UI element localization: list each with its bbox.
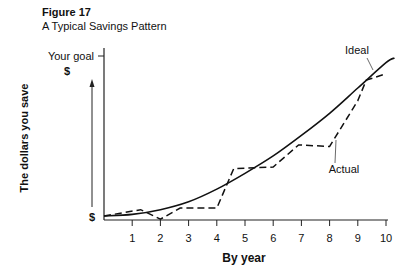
x-tick-label: 7 — [298, 232, 304, 244]
y-tick-goal-unit: $ — [64, 65, 70, 77]
x-tick-label: 1 — [129, 232, 135, 244]
actual-leader-line — [335, 140, 336, 163]
x-ticks: 12345678910 — [129, 220, 392, 244]
ideal-leader-line — [367, 58, 373, 70]
x-tick-label: 3 — [186, 232, 192, 244]
actual-annotation: Actual — [329, 163, 360, 175]
ideal-line — [104, 58, 394, 216]
y-tick-bottom: $ — [89, 211, 95, 223]
y-axis-title: The dollars you save — [18, 84, 30, 193]
up-arrow-icon — [90, 79, 95, 87]
x-tick-label: 8 — [327, 232, 333, 244]
ideal-annotation: Ideal — [345, 44, 369, 56]
actual-line — [104, 74, 386, 219]
x-tick-label: 2 — [157, 232, 163, 244]
x-tick-label: 10 — [380, 232, 392, 244]
x-tick-label: 4 — [214, 232, 220, 244]
x-tick-label: 9 — [355, 232, 361, 244]
x-tick-label: 6 — [270, 232, 276, 244]
y-tick-goal: Your goal — [48, 50, 94, 62]
x-tick-label: 5 — [242, 232, 248, 244]
savings-chart: Your goal $ $ The dollars you save By ye… — [0, 0, 411, 277]
x-axis-title: By year — [222, 251, 266, 265]
